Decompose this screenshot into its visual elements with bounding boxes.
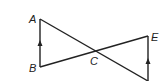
segment-ad <box>40 19 148 81</box>
label-a: A <box>28 13 36 25</box>
label-e: E <box>151 31 159 43</box>
geometry-diagram: A B C E <box>0 0 161 81</box>
parallel-arrow-icon <box>38 40 43 46</box>
label-c: C <box>90 55 98 67</box>
parallel-arrow-icon <box>146 58 151 64</box>
label-b: B <box>29 62 36 74</box>
